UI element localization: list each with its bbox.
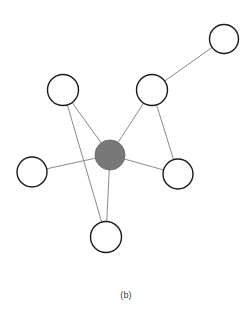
node-layer bbox=[17, 25, 239, 253]
edge-layer bbox=[32, 39, 224, 237]
graph-node-hub[interactable] bbox=[95, 140, 125, 170]
graph-diagram bbox=[0, 0, 252, 324]
graph-node-bottom[interactable] bbox=[91, 222, 122, 253]
graph-node-right[interactable] bbox=[163, 159, 193, 189]
graph-node-upper-middle[interactable] bbox=[137, 75, 168, 106]
graph-node-top-right[interactable] bbox=[210, 25, 239, 54]
figure-container: (b) bbox=[0, 0, 252, 324]
graph-node-upper-left[interactable] bbox=[48, 75, 79, 106]
figure-caption: (b) bbox=[0, 289, 252, 301]
graph-node-left[interactable] bbox=[17, 157, 47, 187]
